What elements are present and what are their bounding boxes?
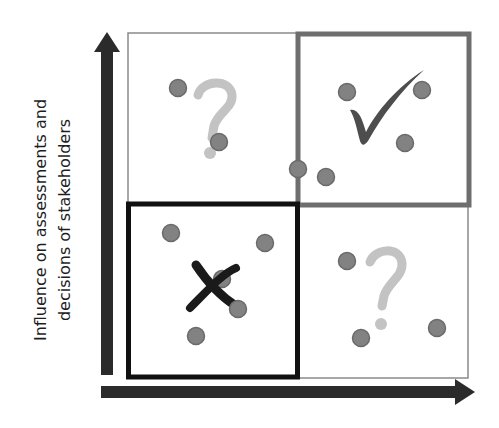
- y-axis-arrow: [94, 32, 120, 375]
- data-point: [170, 80, 187, 97]
- data-point: [353, 330, 370, 347]
- data-point: [188, 328, 205, 345]
- data-point: [290, 161, 307, 178]
- x-axis-arrow: [101, 379, 475, 405]
- data-point: [339, 84, 356, 101]
- check-mark-icon: [350, 70, 424, 145]
- data-point: [257, 235, 274, 252]
- data-point: [211, 134, 228, 151]
- data-point: [429, 320, 446, 337]
- data-point: [339, 253, 356, 270]
- y-axis-label-line-2: decisions of stakeholders: [53, 99, 77, 341]
- question-mark-icon: [370, 251, 402, 330]
- data-point: [163, 225, 180, 242]
- y-axis-label-line-1: Influence on assessments and: [29, 99, 53, 341]
- cross-mark-icon: [190, 265, 236, 308]
- y-axis-label: Influence on assessments and decisions o…: [28, 64, 78, 376]
- data-point: [318, 169, 335, 186]
- data-point: [397, 135, 414, 152]
- data-point: [414, 82, 431, 99]
- data-points: [163, 80, 446, 347]
- data-point: [230, 301, 247, 318]
